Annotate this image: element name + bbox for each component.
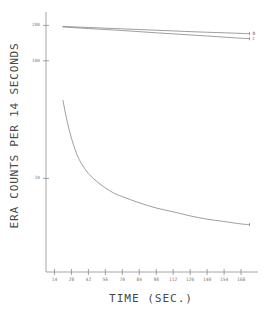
y-axis-title-container: ERA COUNTS PER 14 SECONDS [0,0,30,270]
axes-group [46,12,258,272]
y-tick-label: 10 [24,175,40,180]
series-label-c: C [253,36,256,41]
x-tick-label: 42 [81,277,95,282]
x-tick-label: 168 [234,277,248,282]
x-tick-label: 140 [200,277,214,282]
y-axis-title: ERA COUNTS PER 14 SECONDS [9,42,22,228]
x-tick-label: 14 [47,277,61,282]
x-tick-label: 70 [115,277,129,282]
x-tick-label: 28 [64,277,78,282]
y-tick-label: 100 [24,58,40,63]
chart-figure: ERA COUNTS PER 14 SECONDS TIME (SEC.) 20… [0,0,264,318]
y-tick-label: 200 [24,22,40,27]
x-axis-title: TIME (SEC.) [38,292,264,305]
series-paths [63,26,250,226]
x-tick-label: 126 [183,277,197,282]
x-tick-label: 84 [132,277,146,282]
plot-area [0,0,264,318]
series-line-a [63,100,250,224]
x-tick-label: 56 [98,277,112,282]
x-tick-label: 112 [166,277,180,282]
x-tick-label: 98 [149,277,163,282]
x-tick-label: 154 [217,277,231,282]
